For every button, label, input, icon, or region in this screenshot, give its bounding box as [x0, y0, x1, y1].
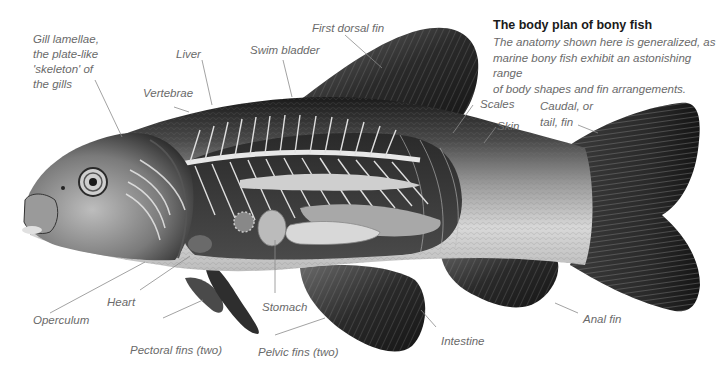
label-heart: Heart — [107, 295, 135, 309]
label-liver: Liver — [176, 47, 201, 61]
caption-body: The anatomy shown here is generalized, a… — [493, 35, 723, 97]
label-line: tail, fin — [540, 114, 593, 130]
label-line: Caudal, or — [540, 98, 593, 114]
label-operculum: Operculum — [33, 313, 89, 327]
caption: The body plan of bony fish The anatomy s… — [493, 18, 723, 97]
label-gill-lamellae: Gill lamellae, the plate-like 'skeleton'… — [33, 32, 99, 92]
label-line: the plate-like — [33, 47, 99, 62]
label-swim-bladder: Swim bladder — [250, 43, 320, 57]
label-pelvic-fins: Pelvic fins (two) — [258, 345, 339, 359]
label-intestine: Intestine — [441, 334, 484, 348]
fish-anatomy-figure: The body plan of bony fish The anatomy s… — [0, 0, 723, 375]
heart — [188, 235, 212, 253]
caption-title: The body plan of bony fish — [493, 18, 723, 33]
label-line: Gill lamellae, — [33, 32, 99, 47]
caption-line: marine bony fish exhibit an astonishing … — [493, 51, 723, 82]
label-line: the gills — [33, 77, 99, 92]
label-caudal-fin: Caudal, or tail, fin — [540, 98, 593, 130]
caption-line: The anatomy shown here is generalized, a… — [493, 35, 723, 51]
fish-head — [22, 133, 194, 260]
label-pectoral-fins: Pectoral fins (two) — [130, 343, 222, 357]
stomach — [258, 210, 286, 246]
label-line: 'skeleton' of — [33, 62, 99, 77]
pectoral-fins — [185, 262, 259, 334]
label-scales: Scales — [480, 97, 515, 111]
pelvic-fin — [300, 265, 425, 351]
label-stomach: Stomach — [262, 300, 307, 314]
label-anal-fin: Anal fin — [583, 312, 621, 326]
caption-line: of body shapes and fin arrangements. — [493, 82, 723, 98]
label-vertebrae: Vertebrae — [143, 86, 193, 100]
label-skin: Skin — [497, 119, 519, 133]
label-first-dorsal-fin: First dorsal fin — [312, 21, 384, 35]
liver — [234, 212, 254, 232]
